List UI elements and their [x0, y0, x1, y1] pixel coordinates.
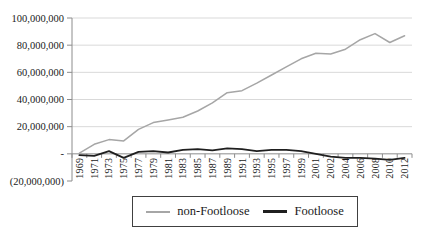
x-axis-label: 1987	[207, 158, 218, 179]
footloose-line-swatch-icon	[263, 210, 287, 213]
non-footloose-line-swatch-icon	[146, 211, 170, 213]
legend-entry-footloose: Footloose	[263, 204, 343, 219]
legend-label-footloose: Footloose	[294, 204, 343, 219]
series-line-non-footloose	[79, 34, 404, 154]
x-axis-label: 1985	[192, 158, 203, 179]
y-axis-label: 60,000,000	[17, 67, 64, 78]
x-axis-label: 1983	[177, 158, 188, 179]
x-axis-label: 2012	[399, 158, 410, 179]
x-axis-label: 1977	[133, 158, 144, 179]
legend: non-Footloose Footloose	[132, 196, 358, 227]
x-axis-label: 1979	[148, 158, 159, 179]
legend-label-non-footloose: non-Footloose	[177, 204, 249, 219]
y-axis-label: 20,000,000	[17, 121, 64, 132]
y-axis-label: 100,000,000	[12, 13, 65, 24]
x-axis-label: 2006	[355, 158, 366, 179]
x-axis-label: 2001	[310, 158, 321, 179]
y-axis-label: -	[61, 148, 65, 159]
x-axis-label: 1989	[222, 158, 233, 179]
x-axis-label: 1971	[89, 158, 100, 179]
x-axis-label: 1995	[266, 158, 277, 179]
legend-entry-non-footloose: non-Footloose	[146, 204, 249, 219]
x-axis-label: 2004	[340, 158, 351, 179]
x-axis-label: 2002	[325, 158, 336, 179]
x-axis-label: 1973	[103, 158, 114, 179]
y-axis-label: (20,000,000)	[10, 176, 65, 188]
x-axis-label: 2008	[370, 158, 381, 179]
x-axis-label: 1993	[251, 158, 262, 179]
x-axis-label: 1975	[118, 158, 129, 179]
y-axis-label: 80,000,000	[17, 40, 64, 51]
x-axis-label: 1991	[237, 158, 248, 179]
x-axis-label: 1981	[163, 158, 174, 179]
x-axis-label: 1999	[296, 158, 307, 179]
x-axis-label: 1969	[74, 158, 85, 179]
x-axis-label: 2010	[384, 158, 395, 179]
x-axis-label: 1997	[281, 158, 292, 179]
chart-container: 100,000,00080,000,00060,000,00040,000,00…	[0, 0, 430, 239]
y-axis-label: 40,000,000	[17, 94, 64, 105]
